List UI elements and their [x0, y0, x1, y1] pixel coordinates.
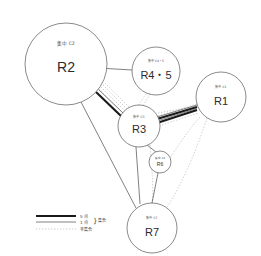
node-r2-label: R2	[57, 59, 75, 75]
node-layer: 集中 C2 R2 集中 C4・5 R4・5 集中 C1 R1 集中 C3 R3	[25, 23, 246, 253]
node-r6[interactable]: 集中 C6 R6	[149, 151, 171, 173]
node-r6-sublabel: 集中 C6	[155, 156, 166, 160]
node-r1-label: R1	[214, 95, 228, 107]
edge-r1-r6-dotted	[170, 117, 200, 158]
legend-label-nongroup: 非集合	[80, 226, 92, 232]
edge-r45-r3-dotted	[138, 94, 150, 106]
legend-brace: }	[93, 217, 97, 225]
legend-label-5points: 5 点	[80, 213, 88, 219]
edge-r1-r7-dotted	[167, 118, 207, 207]
edge-r2-r3-thick	[96, 90, 124, 117]
legend: 5 点 1 点 } 集合 非集合	[36, 213, 106, 233]
node-r2[interactable]: 集中 C2 R2	[25, 23, 107, 105]
node-r1-sublabel: 集中 C1	[215, 84, 226, 89]
edge-r3-r6	[147, 145, 156, 152]
node-r3[interactable]: 集中 C3 R3	[118, 105, 160, 147]
diagram-canvas: 集中 C2 R2 集中 C4・5 R4・5 集中 C1 R1 集中 C3 R3	[0, 0, 261, 256]
node-r7-sublabel: 集中 C7	[146, 215, 157, 220]
node-r3-sublabel: 集中 C3	[133, 114, 144, 119]
edge-r2-r45	[107, 69, 133, 71]
network-diagram: 集中 C2 R2 集中 C4・5 R4・5 集中 C1 R1 集中 C3 R3	[0, 0, 261, 256]
node-r6-label: R6	[157, 161, 164, 167]
node-r7-label: R7	[145, 226, 159, 238]
node-r4-5[interactable]: 集中 C4・5 R4・5	[132, 47, 180, 95]
node-r2-sublabel: 集中 C2	[57, 40, 75, 47]
node-r4-5-sublabel: 集中 C4・5	[148, 58, 164, 63]
edge-r3-r7	[136, 147, 140, 204]
legend-label-1point: 1 点	[80, 219, 88, 225]
legend-label-group: 集合	[98, 217, 106, 223]
node-r7[interactable]: 集中 C7 R7	[127, 203, 177, 253]
node-r1[interactable]: 集中 C1 R1	[196, 72, 246, 122]
node-r4-5-label: R4・5	[140, 69, 171, 81]
node-r3-label: R3	[132, 123, 146, 135]
